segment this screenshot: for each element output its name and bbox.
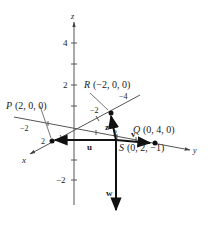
- z-axis-label: z: [70, 12, 75, 21]
- z-tick-label-4: 4: [63, 38, 68, 48]
- z-tick-label-2: 2: [63, 80, 68, 90]
- point-s-label: S (0, 2, −1): [119, 142, 164, 154]
- svg-text:P: P: [5, 100, 12, 111]
- vector-z-label: z: [105, 122, 109, 132]
- svg-text:R: R: [83, 79, 90, 90]
- z-tick-label-neg2: −2: [56, 175, 66, 185]
- point-r: [109, 111, 114, 116]
- svg-text:(0, 2, −1): (0, 2, −1): [127, 142, 164, 154]
- neg-x-tick-label-neg2: −2: [90, 106, 99, 115]
- vector-u-label: u: [87, 142, 92, 152]
- svg-text:(−2, 0, 0): (−2, 0, 0): [93, 79, 130, 91]
- svg-text:(0, 4, 0): (0, 4, 0): [143, 124, 175, 136]
- extra-tick-label-2: 2: [113, 129, 117, 138]
- point-q-label: Q (0, 4, 0): [133, 124, 175, 136]
- point-r-label: R (−2, 0, 0): [83, 79, 130, 91]
- svg-text:S: S: [119, 142, 124, 153]
- point-p: [50, 139, 55, 144]
- neg-x-tick-label-neg4: −4: [119, 92, 128, 101]
- point-p-label: P (2, 0, 0): [5, 100, 47, 112]
- y-tick-label-neg2: −2: [20, 124, 29, 133]
- x-tick-label-2: 2: [41, 137, 45, 146]
- y-axis-label: y: [192, 146, 197, 155]
- svg-text:(2, 0, 0): (2, 0, 0): [15, 100, 47, 112]
- svg-text:Q: Q: [133, 124, 141, 135]
- vector-w-label: w: [106, 188, 113, 198]
- x-axis-label: x: [21, 155, 26, 165]
- vector-diagram: z 4 2 −2 x 2 −2 −4 y −2 u v z w 2: [0, 0, 214, 226]
